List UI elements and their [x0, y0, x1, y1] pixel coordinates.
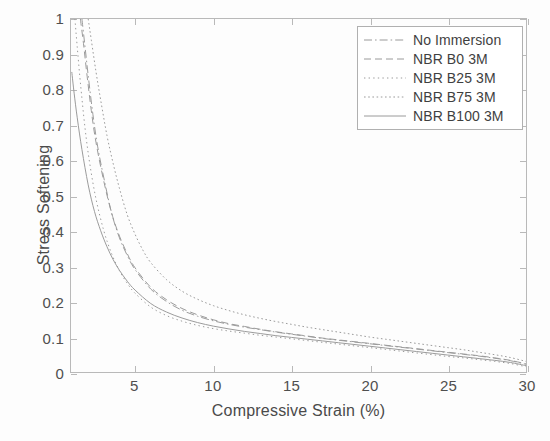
- legend-item[interactable]: NBR B75 3M: [358, 87, 522, 106]
- legend-item[interactable]: NBR B25 3M: [358, 68, 522, 87]
- x-tick-label: 15: [283, 377, 300, 394]
- x-axis-title: Compressive Strain (%): [70, 402, 527, 420]
- legend-item[interactable]: No Immersion: [358, 30, 522, 49]
- y-tick-label: 1: [55, 10, 64, 27]
- x-tick-label: 10: [204, 377, 221, 394]
- x-tick-mark: [528, 19, 529, 25]
- legend-item-label: NBR B25 3M: [413, 70, 496, 86]
- legend-item[interactable]: NBR B100 3M: [358, 106, 522, 125]
- y-tick-mark: [520, 374, 526, 375]
- legend-item-label: NBR B0 3M: [413, 51, 488, 67]
- x-tick-label: 25: [440, 377, 457, 394]
- legend-item-label: NBR B100 3M: [413, 108, 504, 124]
- legend-line-sample-icon: [363, 72, 407, 84]
- y-tick-label: 0.3: [43, 258, 64, 275]
- y-tick-label: 0.2: [43, 294, 64, 311]
- legend-box: No ImmersionNBR B0 3MNBR B25 3MNBR B75 3…: [357, 26, 523, 130]
- x-tick-label: 5: [130, 377, 139, 394]
- legend-line-sample-icon: [363, 91, 407, 103]
- figure-canvas: Stress Softening 00.10.20.30.40.50.60.70…: [0, 0, 550, 441]
- legend-line-sample-icon: [363, 110, 407, 122]
- y-tick-label: 0.7: [43, 116, 64, 133]
- legend-item-label: NBR B75 3M: [413, 89, 496, 105]
- legend-item-label: No Immersion: [413, 32, 501, 48]
- legend-line-sample-icon: [363, 34, 407, 46]
- legend-line-sample-icon: [363, 53, 407, 65]
- y-tick-label: 0: [55, 365, 64, 382]
- x-tick-label: 30: [518, 377, 535, 394]
- y-tick-label: 0.5: [43, 187, 64, 204]
- y-tick-label: 0.9: [43, 45, 64, 62]
- y-tick-label: 0.6: [43, 152, 64, 169]
- legend-item[interactable]: NBR B0 3M: [358, 49, 522, 68]
- x-tick-label: 20: [361, 377, 378, 394]
- y-tick-label: 0.4: [43, 223, 64, 240]
- x-tick-mark: [528, 366, 529, 372]
- y-tick-label: 0.8: [43, 81, 64, 98]
- y-tick-label: 0.1: [43, 329, 64, 346]
- y-tick-mark: [71, 374, 77, 375]
